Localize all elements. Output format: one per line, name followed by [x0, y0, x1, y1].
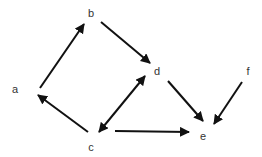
edge-f-e-arrow: [214, 82, 242, 124]
node-a-label: a: [12, 83, 19, 95]
node-b-label: b: [88, 7, 94, 19]
edge-b-d-arrow: [101, 22, 150, 63]
node-e-label: e: [200, 130, 206, 142]
edge-c-a-arrow: [38, 95, 88, 132]
node-d-label: d: [154, 65, 160, 77]
edge-d-e-arrow: [168, 81, 203, 121]
edge-a-b-arrow: [40, 24, 84, 88]
edge-c-e-arrow: [115, 131, 189, 132]
edge-c-d-arrow: [99, 76, 145, 132]
node-c-label: c: [88, 141, 94, 153]
edges: [38, 22, 242, 132]
graph-diagram: abcdef: [0, 0, 262, 157]
node-f-label: f: [246, 65, 250, 77]
